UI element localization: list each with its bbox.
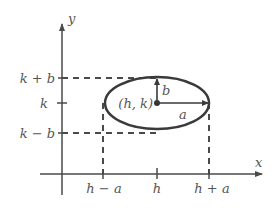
center-label: (h, k) (118, 96, 153, 111)
tick-label-h-plus-a: h + a (194, 181, 229, 196)
tick-label-k: k (40, 96, 48, 111)
semi-axis-a-label: a (179, 107, 187, 122)
tick-label-h: h (153, 181, 161, 196)
tick-label-h-minus-a: h − a (86, 181, 121, 196)
tick-label-k-plus-b: k + b (20, 71, 55, 86)
y-axis-label: y (67, 11, 76, 26)
tick-label-k-minus-b: k − b (20, 126, 55, 141)
x-axis-label: x (255, 155, 263, 170)
ellipse-diagram: y x k + b k k − b h − a h h + a (h, k) b… (0, 0, 279, 215)
semi-axis-b-label: b (162, 83, 170, 98)
